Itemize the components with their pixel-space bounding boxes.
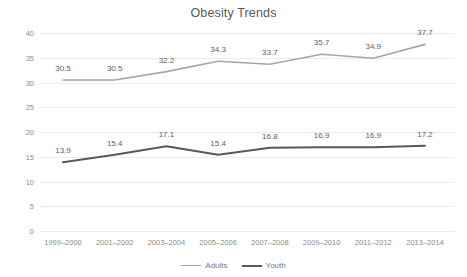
data-label: 30.5 bbox=[107, 64, 123, 73]
chart-plot-area: 0510152025303540 1999–20002001–20022003–… bbox=[0, 0, 467, 277]
data-label: 37.7 bbox=[417, 28, 433, 37]
y-tick-label: 25 bbox=[26, 103, 34, 112]
x-tick-label: 2011–2012 bbox=[355, 238, 392, 247]
data-label: 17.1 bbox=[159, 130, 175, 139]
obesity-trends-chart: Obesity Trends 0510152025303540 1999–200… bbox=[0, 0, 467, 277]
x-axis-tick-labels: 1999–20002001–20022003–20042005–20062007… bbox=[44, 238, 444, 247]
data-label: 16.8 bbox=[262, 132, 278, 141]
data-label: 33.7 bbox=[262, 48, 278, 57]
data-label: 30.5 bbox=[55, 64, 71, 73]
data-label: 13.9 bbox=[55, 146, 71, 155]
legend-swatch-youth bbox=[242, 265, 262, 267]
y-tick-label: 10 bbox=[26, 178, 34, 187]
data-label: 34.3 bbox=[210, 45, 226, 54]
data-label: 16.9 bbox=[365, 131, 381, 140]
data-label: 32.2 bbox=[159, 56, 175, 65]
x-tick-label: 1999–2000 bbox=[44, 238, 82, 247]
data-label: 35.7 bbox=[314, 38, 330, 47]
y-tick-label: 20 bbox=[26, 128, 34, 137]
series-line-youth bbox=[63, 146, 425, 162]
y-tick-label: 15 bbox=[26, 153, 34, 162]
x-tick-label: 2007–2008 bbox=[251, 238, 289, 247]
y-tick-label: 40 bbox=[26, 29, 34, 38]
x-tick-label: 2003–2004 bbox=[148, 238, 186, 247]
legend-swatch-adults bbox=[181, 265, 201, 266]
data-label: 16.9 bbox=[314, 131, 330, 140]
data-point-labels: 30.530.532.234.333.735.734.937.713.915.4… bbox=[55, 28, 433, 155]
legend-label-youth: Youth bbox=[266, 261, 286, 270]
legend-entry-youth[interactable]: Youth bbox=[242, 261, 286, 270]
y-axis-tick-labels: 0510152025303540 bbox=[26, 29, 34, 236]
y-tick-label: 35 bbox=[26, 54, 34, 63]
legend-entry-adults[interactable]: Adults bbox=[181, 261, 227, 270]
y-tick-label: 30 bbox=[26, 79, 34, 88]
y-tick-label: 0 bbox=[30, 227, 34, 236]
data-label: 34.9 bbox=[365, 42, 381, 51]
data-label: 17.2 bbox=[417, 130, 433, 139]
x-tick-label: 2005–2006 bbox=[199, 238, 237, 247]
data-label: 15.4 bbox=[107, 139, 123, 148]
chart-legend: Adults Youth bbox=[0, 261, 467, 270]
x-tick-label: 2009–2010 bbox=[303, 238, 341, 247]
x-tick-label: 2001–2002 bbox=[96, 238, 134, 247]
y-tick-label: 5 bbox=[30, 202, 34, 211]
x-tick-label: 2013–2014 bbox=[406, 238, 444, 247]
legend-label-adults: Adults bbox=[205, 261, 227, 270]
data-label: 15.4 bbox=[210, 139, 226, 148]
